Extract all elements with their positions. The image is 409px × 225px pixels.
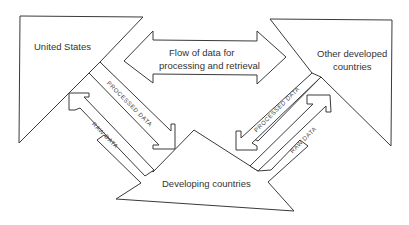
developing-countries-label: Developing countries — [162, 178, 251, 190]
united-states-label: United States — [34, 41, 91, 53]
diagram-canvas — [0, 0, 409, 225]
center-label-line1: Flow of data for — [169, 47, 234, 59]
united-states-shape — [19, 16, 154, 143]
other-developed-label-line2: countries — [333, 61, 372, 73]
center-label-line2: processing and retrieval — [159, 60, 260, 72]
other-developed-shape — [250, 19, 392, 146]
other-developed-label-line1: Other developed — [317, 48, 387, 60]
